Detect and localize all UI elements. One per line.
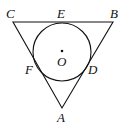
geometry-diagram: C E B F O D A bbox=[0, 0, 127, 132]
label-e: E bbox=[56, 6, 65, 21]
label-d: D bbox=[87, 62, 98, 77]
label-o: O bbox=[57, 54, 67, 69]
label-b: B bbox=[110, 6, 118, 21]
center-point-o bbox=[61, 50, 64, 53]
label-a: A bbox=[56, 110, 65, 125]
label-c: C bbox=[6, 6, 15, 21]
label-f: F bbox=[24, 62, 34, 77]
